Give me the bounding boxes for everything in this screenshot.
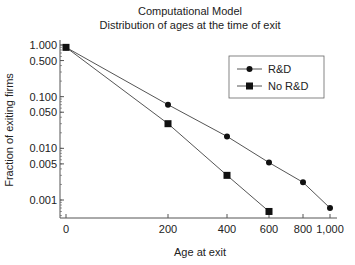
x-tick-label: 200 — [159, 223, 177, 235]
square-marker — [63, 44, 70, 51]
y-tick-label: 1.000 — [29, 39, 57, 51]
y-tick-label: 0.500 — [29, 55, 57, 67]
circle-marker — [266, 160, 272, 166]
chart: Computational Model Distribution of ages… — [0, 0, 355, 265]
y-tick-label: 0.005 — [29, 158, 57, 170]
legend-label: No R&D — [268, 80, 308, 92]
legend: R&DNo R&D — [229, 56, 324, 98]
circle-marker — [327, 205, 333, 211]
legend-label: R&D — [268, 63, 291, 75]
x-tick-label: 0 — [63, 223, 69, 235]
y-tick-label: 0.001 — [29, 194, 57, 206]
chart-subtitle: Distribution of ages at the time of exit — [100, 19, 281, 31]
legend-square-icon — [246, 83, 253, 90]
y-tick-label: 0.050 — [29, 106, 57, 118]
square-marker — [224, 172, 231, 179]
chart-title: Computational Model — [138, 5, 242, 17]
y-axis-label: Fraction of exiting firms — [3, 73, 15, 187]
x-tick-label: 600 — [260, 223, 278, 235]
x-axis-label: Age at exit — [174, 246, 226, 258]
x-tick-label: 400 — [218, 223, 236, 235]
circle-marker — [224, 133, 230, 139]
circle-marker — [165, 102, 171, 108]
x-tick-label: 1,000 — [316, 223, 344, 235]
x-tick-label: 800 — [294, 223, 312, 235]
circle-marker — [300, 179, 306, 185]
legend-circle-icon — [247, 66, 253, 72]
square-marker — [165, 120, 172, 127]
y-tick-label: 0.100 — [29, 91, 57, 103]
square-marker — [266, 208, 273, 215]
y-tick-label: 0.010 — [29, 142, 57, 154]
